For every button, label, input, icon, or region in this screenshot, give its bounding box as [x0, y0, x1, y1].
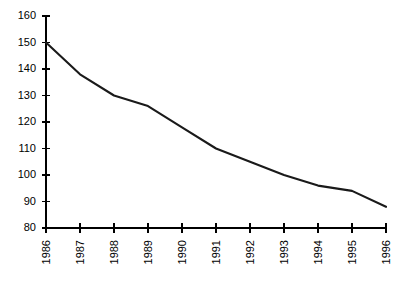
y-tick-label: 90 [24, 195, 36, 207]
y-tick-label: 140 [18, 62, 36, 74]
chart-canvas: 8090100110120130140150160 19861987198819… [0, 0, 404, 286]
x-tick-label: 1991 [210, 240, 222, 264]
y-tick-label: 130 [18, 89, 36, 101]
x-tick-label: 1993 [278, 240, 290, 264]
data-series-line [46, 43, 386, 207]
x-tick-label: 1987 [74, 240, 86, 264]
x-tick-label: 1996 [380, 240, 392, 264]
x-tick-label: 1994 [312, 240, 324, 264]
x-axis-tick-labels: 1986198719881989199019911992199319941995… [40, 240, 392, 264]
y-tick-label: 110 [18, 142, 36, 154]
x-tick-label: 1995 [346, 240, 358, 264]
x-tick-label: 1988 [108, 240, 120, 264]
y-tick-label: 80 [24, 221, 36, 233]
line-chart: 8090100110120130140150160 19861987198819… [0, 0, 404, 286]
y-tick-label: 120 [18, 115, 36, 127]
y-tick-label: 150 [18, 36, 36, 48]
x-tick-label: 1989 [142, 240, 154, 264]
y-tick-label: 100 [18, 168, 36, 180]
y-axis-tick-labels: 8090100110120130140150160 [18, 9, 36, 233]
y-tick-label: 160 [18, 9, 36, 21]
x-tick-label: 1986 [40, 240, 52, 264]
x-tick-label: 1992 [244, 240, 256, 264]
x-tick-label: 1990 [176, 240, 188, 264]
